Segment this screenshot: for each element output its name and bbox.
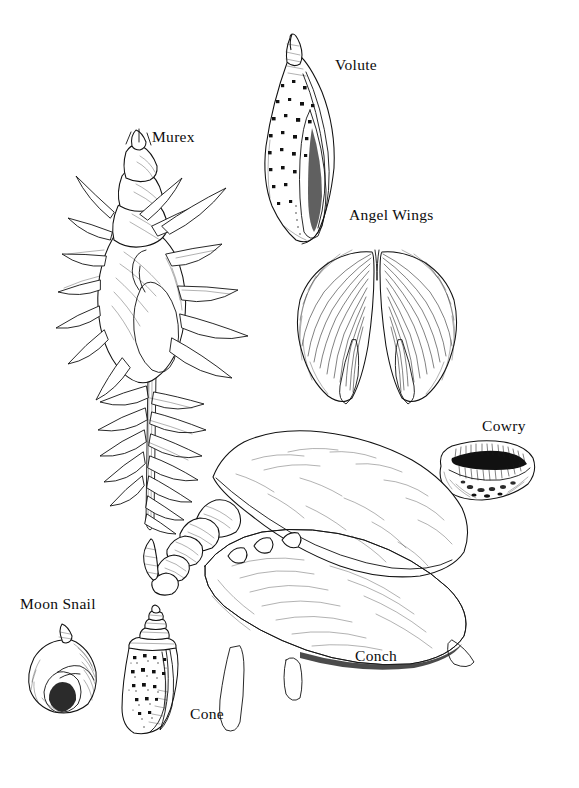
cone-illustration — [122, 605, 178, 734]
label-cowry: Cowry — [482, 418, 526, 434]
moon-snail-illustration — [29, 624, 97, 713]
plate-artwork — [0, 0, 579, 788]
angel-wings-illustration — [297, 250, 456, 404]
label-volute: Volute — [335, 57, 377, 73]
murex-illustration — [56, 129, 248, 534]
label-cone: Cone — [190, 706, 224, 722]
label-angel-wings: Angel Wings — [349, 207, 434, 223]
seashell-illustration-plate: Murex Volute Angel Wings Cowry Conch Moo… — [0, 0, 579, 788]
cowry-illustration — [440, 441, 535, 500]
label-murex: Murex — [152, 129, 195, 145]
label-moon-snail: Moon Snail — [20, 596, 96, 612]
volute-illustration — [265, 34, 334, 244]
conch-illustration — [144, 431, 474, 731]
label-conch: Conch — [355, 648, 397, 664]
